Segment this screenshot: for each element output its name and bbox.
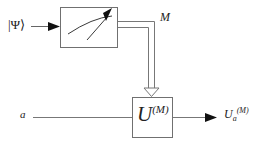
input-arrowhead xyxy=(48,22,60,31)
quantum-input-wire xyxy=(31,22,60,31)
unitary-superscript: (M) xyxy=(152,103,169,115)
output-state-label: Ua(M) xyxy=(224,107,249,123)
meter-box xyxy=(61,8,118,48)
unitary-box-label: U(M) xyxy=(137,104,169,125)
classical-channel-wire xyxy=(118,22,159,97)
circuit-diagram-svg xyxy=(0,0,265,147)
classical-arrowhead xyxy=(144,88,159,97)
output-arrowhead xyxy=(205,113,217,122)
ancilla-input-label: a xyxy=(20,109,26,120)
output-symbol: U xyxy=(224,107,233,121)
input-state-label: |Ψ⟩ xyxy=(8,18,25,31)
output-wire xyxy=(173,113,217,122)
output-superscript: (M) xyxy=(237,106,249,115)
output-subscript: a xyxy=(233,114,237,123)
unitary-symbol: U xyxy=(137,102,152,126)
measurement-result-label: M xyxy=(160,11,170,23)
quantum-circuit-figure: |Ψ⟩ M a U(M) Ua(M) xyxy=(0,0,265,147)
